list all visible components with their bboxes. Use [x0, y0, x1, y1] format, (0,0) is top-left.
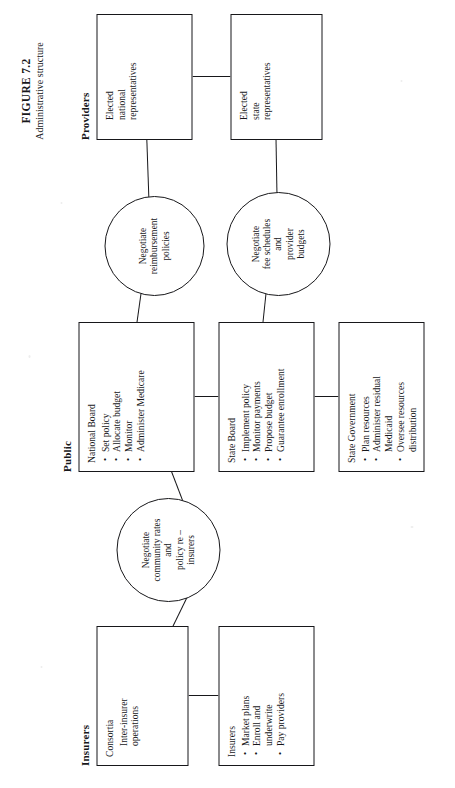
node-national-board-bullets: •Set policy •Allocate budget •Monitor •A…: [99, 331, 146, 463]
list-item-label: Monitor payments: [250, 381, 261, 452]
bullet-icon: •: [274, 458, 285, 461]
connector-elected-national-elected-state: [192, 76, 230, 77]
bullet-icon: •: [239, 458, 250, 461]
scan-speckle: [400, 80, 402, 82]
list-item: •Allocate budget: [110, 331, 122, 452]
list-item-label: state: [249, 102, 260, 120]
list-item-label: Inter-insurer: [117, 698, 128, 746]
connector-fee-circle-elected-state: [275, 136, 277, 196]
bullet-icon: •: [359, 458, 370, 461]
node-national-board-title: National Board: [85, 331, 97, 463]
list-item: •representatives: [260, 23, 272, 120]
list-item-label: representatives: [260, 62, 271, 120]
list-item: •Elected: [103, 23, 115, 120]
list-item: •Inter-insurer: [117, 635, 129, 746]
list-item-label: Market plans: [239, 696, 250, 746]
list-item: •Set policy: [99, 331, 111, 452]
bullet-icon: •: [239, 752, 250, 755]
list-item-label: Administer Medicare: [134, 370, 145, 452]
scan-speckle: [40, 666, 42, 668]
figure-number: FIGURE 7.2: [18, 6, 32, 176]
connector-national-board-state-board: [194, 396, 218, 397]
list-item-label: Monitor: [122, 421, 133, 452]
scan-speckle: [410, 526, 413, 528]
list-item-label: Guarantee enrollment: [274, 369, 285, 452]
scan-speckle: [60, 202, 62, 204]
list-item: •Enroll and underwrite: [250, 635, 273, 746]
figure-canvas: FIGURE 7.2 Administrative structure Insu…: [0, 0, 455, 788]
connector-state-board-state-government: [314, 396, 338, 397]
node-national-board[interactable]: National Board •Set policy •Allocate bud…: [78, 322, 194, 472]
node-state-government-bullets: •Plan resources •Administer residual Med…: [359, 331, 418, 463]
circle-negotiate-fee-schedules[interactable]: Negotiate fee schedules and provider bud…: [226, 192, 330, 296]
bullet-icon: •: [122, 458, 133, 461]
node-insurers-title: Insurers: [225, 635, 237, 757]
node-elected-state-lines: •Elected •state •representatives: [237, 23, 272, 131]
list-item-label: Plan resources: [359, 396, 370, 452]
node-state-board-title: State Board: [225, 331, 237, 463]
list-item: •state: [249, 23, 261, 120]
connector-consortia-insurers: [188, 695, 218, 696]
list-item: •Administer Medicare: [134, 331, 146, 452]
circle-negotiate-reimbursement-policies[interactable]: Negotiate reimbursement policies: [104, 196, 204, 296]
bullet-icon: •: [274, 752, 285, 755]
list-item: •Administer residual Medicaid: [370, 331, 393, 452]
list-item-label: Elected: [237, 91, 248, 120]
list-item: •Propose budget: [262, 331, 274, 452]
node-consortia-title: Consortia: [103, 635, 115, 757]
list-item: •national: [115, 23, 127, 120]
node-state-government-title: State Government: [345, 331, 357, 463]
node-consortia[interactable]: Consortia •Inter-insurer •operations: [96, 626, 188, 766]
list-item-label: Set policy: [99, 413, 110, 452]
connector-reimbursement-circle-elected-national: [146, 136, 149, 202]
bullet-icon: •: [250, 752, 261, 755]
figure-subtitle: Administrative structure: [33, 6, 46, 176]
list-item: •Monitor: [122, 331, 134, 452]
bullet-icon: •: [370, 458, 381, 461]
list-item-label: representatives: [126, 62, 137, 120]
node-insurers[interactable]: Insurers •Market plans •Enroll and under…: [218, 626, 314, 766]
list-item-label: Elected: [103, 91, 114, 120]
node-consortia-lines: •Inter-insurer •operations: [117, 635, 140, 757]
node-elected-national-representatives[interactable]: •Elected •national •representatives: [96, 14, 192, 140]
bullet-icon: •: [134, 458, 145, 461]
group-heading-providers: Providers: [78, 93, 90, 140]
list-item: •Monitor payments: [250, 331, 262, 452]
list-item: •Oversee resources distribution: [394, 331, 417, 452]
list-item: •representatives: [126, 23, 138, 120]
list-item: •Pay providers: [274, 635, 286, 746]
bullet-icon: •: [262, 458, 273, 461]
list-item: •operations: [128, 635, 140, 746]
list-item-label: Pay providers: [274, 693, 285, 746]
bullet-icon: •: [110, 458, 121, 461]
bullet-icon: •: [250, 458, 261, 461]
list-item: •Elected: [237, 23, 249, 120]
bullet-icon: •: [99, 458, 110, 461]
node-state-board-bullets: •Implement policy •Monitor payments •Pro…: [239, 331, 286, 463]
list-item: •Guarantee enrollment: [274, 331, 286, 452]
node-insurers-bullets: •Market plans •Enroll and underwrite •Pa…: [239, 635, 286, 757]
node-elected-state-representatives[interactable]: •Elected •state •representatives: [230, 14, 322, 140]
node-elected-national-lines: •Elected •national •representatives: [103, 23, 138, 131]
list-item-label: Administer residual Medicaid: [370, 376, 393, 452]
group-heading-public: Public: [60, 441, 72, 472]
list-item-label: operations: [128, 706, 139, 746]
bullet-icon: •: [394, 458, 405, 461]
list-item-label: national: [115, 89, 126, 120]
node-state-board[interactable]: State Board •Implement policy •Monitor p…: [218, 322, 314, 472]
node-state-government[interactable]: State Government •Plan resources •Admini…: [338, 322, 424, 472]
list-item: •Plan resources: [359, 331, 371, 452]
list-item: •Implement policy: [239, 331, 251, 452]
group-heading-insurers: Insurers: [78, 725, 90, 766]
list-item-label: Enroll and underwrite: [250, 704, 273, 746]
figure-caption: FIGURE 7.2 Administrative structure: [18, 6, 46, 176]
scan-speckle: [28, 355, 30, 358]
list-item-label: Implement policy: [239, 384, 250, 452]
list-item-label: Oversee resources distribution: [394, 382, 417, 452]
list-item: •Market plans: [239, 635, 251, 746]
circle-negotiate-community-rates[interactable]: Negotiate community rates and policy re …: [116, 498, 220, 602]
list-item-label: Allocate budget: [110, 391, 121, 452]
scanned-page-rotation-wrapper: FIGURE 7.2 Administrative structure Insu…: [0, 0, 455, 788]
list-item-label: Propose budget: [262, 393, 273, 452]
